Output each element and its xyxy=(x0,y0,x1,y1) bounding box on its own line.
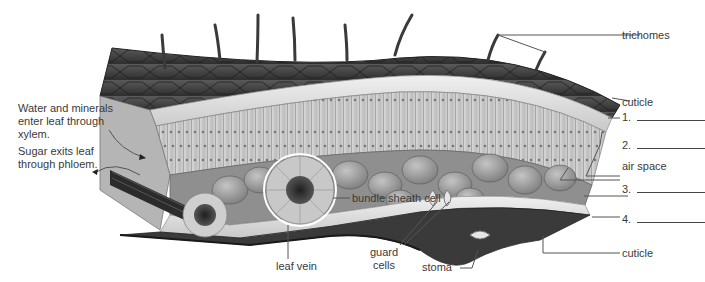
label-guard-cells: guard cells xyxy=(364,246,404,272)
answer-blank-2[interactable] xyxy=(637,139,705,149)
xylem-line-3: xylem. xyxy=(18,128,128,141)
label-trichomes: trichomes xyxy=(622,29,670,42)
leaf-vein-cross-section xyxy=(264,154,336,226)
blank-label-3: 3. xyxy=(622,183,705,196)
guard-cells-line-2: cells xyxy=(364,259,404,272)
xylem-annotation: Water and minerals enter leaf through xy… xyxy=(18,102,128,141)
blank-label-1: 1. xyxy=(622,111,705,124)
blank-number-1: 1. xyxy=(622,111,631,123)
xylem-line-1: Water and minerals xyxy=(18,102,128,115)
label-air-space: air space xyxy=(622,160,667,173)
label-cuticle-top: cuticle xyxy=(622,96,653,109)
blank-number-3: 3. xyxy=(622,183,631,195)
xylem-line-2: enter leaf through xyxy=(18,115,128,128)
phloem-line-1: Sugar exits leaf xyxy=(18,145,118,158)
guard-cells-line-1: guard xyxy=(364,246,404,259)
label-leaf-vein: leaf vein xyxy=(276,260,317,273)
label-stoma: stoma xyxy=(422,261,452,274)
blank-number-2: 2. xyxy=(622,139,631,151)
label-cuticle-bottom: cuticle xyxy=(622,247,653,260)
answer-blank-1[interactable] xyxy=(637,111,705,121)
label-bundle-sheath-cell: bundle sheath cell xyxy=(352,192,441,205)
blank-label-2: 2. xyxy=(622,139,705,152)
blank-label-4: 4. xyxy=(622,213,705,226)
answer-blank-4[interactable] xyxy=(637,213,705,223)
phloem-line-2: through phloem. xyxy=(18,158,118,171)
answer-blank-3[interactable] xyxy=(637,183,705,193)
phloem-annotation: Sugar exits leaf through phloem. xyxy=(18,145,118,171)
blank-number-4: 4. xyxy=(622,213,631,225)
